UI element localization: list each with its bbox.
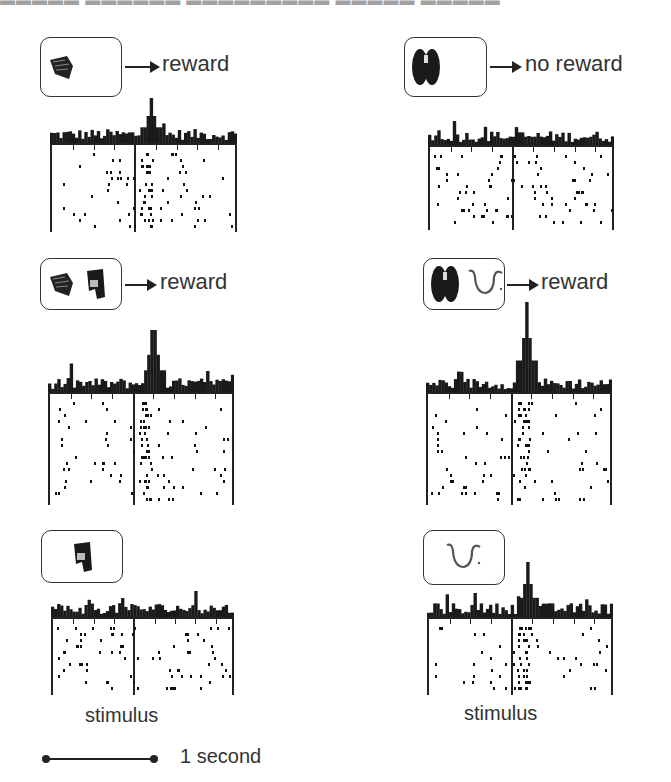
axis-tick bbox=[470, 619, 471, 624]
axis-tick bbox=[73, 145, 74, 150]
axis-tick bbox=[177, 145, 178, 150]
outcome-label: reward bbox=[162, 51, 229, 77]
axis-tick bbox=[195, 619, 196, 624]
leaf-cluster-icon bbox=[47, 52, 77, 82]
scale-bar-line bbox=[45, 758, 155, 760]
axis-tick bbox=[573, 394, 574, 399]
axis-tick bbox=[114, 619, 115, 624]
histogram bbox=[50, 96, 237, 143]
dark-blob-icon bbox=[430, 264, 460, 304]
scale-bar-label: 1 second bbox=[180, 745, 261, 768]
axis-tick bbox=[114, 145, 115, 150]
axis-tick bbox=[153, 394, 154, 399]
axis-tick bbox=[531, 394, 532, 399]
axis-tick bbox=[449, 394, 450, 399]
stimulus-onset-line bbox=[511, 619, 513, 695]
axis-tick bbox=[533, 147, 534, 152]
outcome-label: reward bbox=[160, 269, 227, 295]
axis-tick bbox=[594, 619, 595, 624]
stimulus-box bbox=[404, 37, 487, 97]
axis-tick bbox=[197, 145, 198, 150]
raster-plot bbox=[427, 617, 613, 695]
histogram bbox=[428, 119, 614, 145]
raster-plot bbox=[51, 617, 234, 695]
figure-icon bbox=[83, 267, 107, 301]
axis-tick bbox=[155, 619, 156, 624]
axis-tick bbox=[491, 619, 492, 624]
stimulus-label-left: stimulus bbox=[85, 704, 158, 727]
arrow-icon bbox=[490, 66, 520, 68]
axis-tick bbox=[450, 619, 451, 624]
axis-tick bbox=[595, 147, 596, 152]
axis-tick bbox=[73, 619, 74, 624]
squiggle-icon bbox=[466, 267, 506, 301]
axis-tick bbox=[554, 147, 555, 152]
leaf-cluster-icon bbox=[47, 269, 77, 299]
scale-bar-endpoint bbox=[42, 755, 50, 763]
stimulus-box bbox=[40, 37, 122, 97]
axis-tick bbox=[175, 619, 176, 624]
dark-blob-icon bbox=[411, 47, 441, 87]
raster-plot bbox=[428, 145, 614, 230]
histogram bbox=[48, 328, 234, 392]
axis-tick bbox=[492, 147, 493, 152]
outcome-label: reward bbox=[541, 269, 608, 295]
axis-tick bbox=[91, 394, 92, 399]
arrow-icon bbox=[507, 284, 537, 286]
stimulus-onset-line bbox=[134, 145, 136, 232]
axis-tick bbox=[532, 619, 533, 624]
histogram bbox=[426, 300, 612, 392]
axis-tick bbox=[215, 394, 216, 399]
stimulus-label-right: stimulus bbox=[464, 702, 537, 725]
axis-tick bbox=[195, 394, 196, 399]
axis-tick bbox=[94, 619, 95, 624]
clipped-figure-title: ▬▬▬▬▬ ▬▬▬▬▬▬ ▬▬▬▬▬▬▬▬▬ ▬▬▬▬▬ ▬▬▬▬▬ bbox=[0, 0, 671, 5]
axis-tick bbox=[490, 394, 491, 399]
axis-tick bbox=[218, 145, 219, 150]
axis-tick bbox=[71, 394, 72, 399]
axis-tick bbox=[216, 619, 217, 624]
axis-tick bbox=[469, 394, 470, 399]
axis-tick bbox=[552, 394, 553, 399]
raster-plot bbox=[50, 143, 237, 232]
raster-plot bbox=[426, 392, 612, 505]
axis-tick bbox=[593, 394, 594, 399]
histogram bbox=[51, 575, 234, 617]
arrow-icon bbox=[125, 284, 155, 286]
axis-tick bbox=[553, 619, 554, 624]
axis-tick bbox=[574, 619, 575, 624]
stimulus-onset-line bbox=[511, 394, 513, 505]
axis-tick bbox=[94, 145, 95, 150]
scale-bar-endpoint bbox=[150, 755, 158, 763]
axis-tick bbox=[112, 394, 113, 399]
axis-tick bbox=[471, 147, 472, 152]
axis-tick bbox=[174, 394, 175, 399]
arrow-icon bbox=[125, 66, 158, 68]
axis-tick bbox=[156, 145, 157, 150]
raster-plot bbox=[48, 392, 234, 505]
axis-tick bbox=[451, 147, 452, 152]
histogram bbox=[427, 560, 613, 617]
figure-icon bbox=[70, 540, 94, 574]
stimulus-box bbox=[40, 258, 122, 310]
axis-tick bbox=[575, 147, 576, 152]
outcome-label: no reward bbox=[525, 51, 623, 77]
